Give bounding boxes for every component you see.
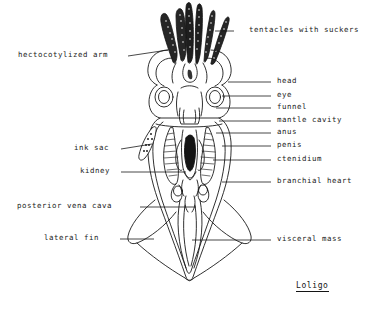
label-posterior-vena-cava: posterior vena cava xyxy=(17,201,112,210)
label-head: head xyxy=(277,76,297,85)
leader-hectocotylized-arm xyxy=(128,50,168,56)
label-funnel: funnel xyxy=(277,102,307,111)
label-ctenidium: ctenidium xyxy=(277,154,322,163)
label-visceral-mass: visceral mass xyxy=(277,234,342,243)
squid-anatomy-diagram: hectocotylized armink sackidneyposterior… xyxy=(0,0,379,309)
label-penis: penis xyxy=(277,140,302,149)
label-anus: anus xyxy=(277,127,297,136)
figure-caption: Loligo xyxy=(296,281,329,292)
leader-lines xyxy=(0,0,379,309)
label-eye: eye xyxy=(277,90,292,99)
label-mantle-cavity: mantle cavity xyxy=(277,115,342,124)
label-lateral-fin: lateral fin xyxy=(44,233,99,242)
leader-ink-sac xyxy=(121,144,152,149)
label-ink-sac: ink sac xyxy=(74,143,109,152)
label-tentacles-with-suckers: tentacles with suckers xyxy=(249,25,359,34)
label-kidney: kidney xyxy=(80,166,110,175)
label-hectocotylized-arm: hectocotylized arm xyxy=(18,50,108,59)
label-branchial-heart: branchial heart xyxy=(277,176,352,185)
